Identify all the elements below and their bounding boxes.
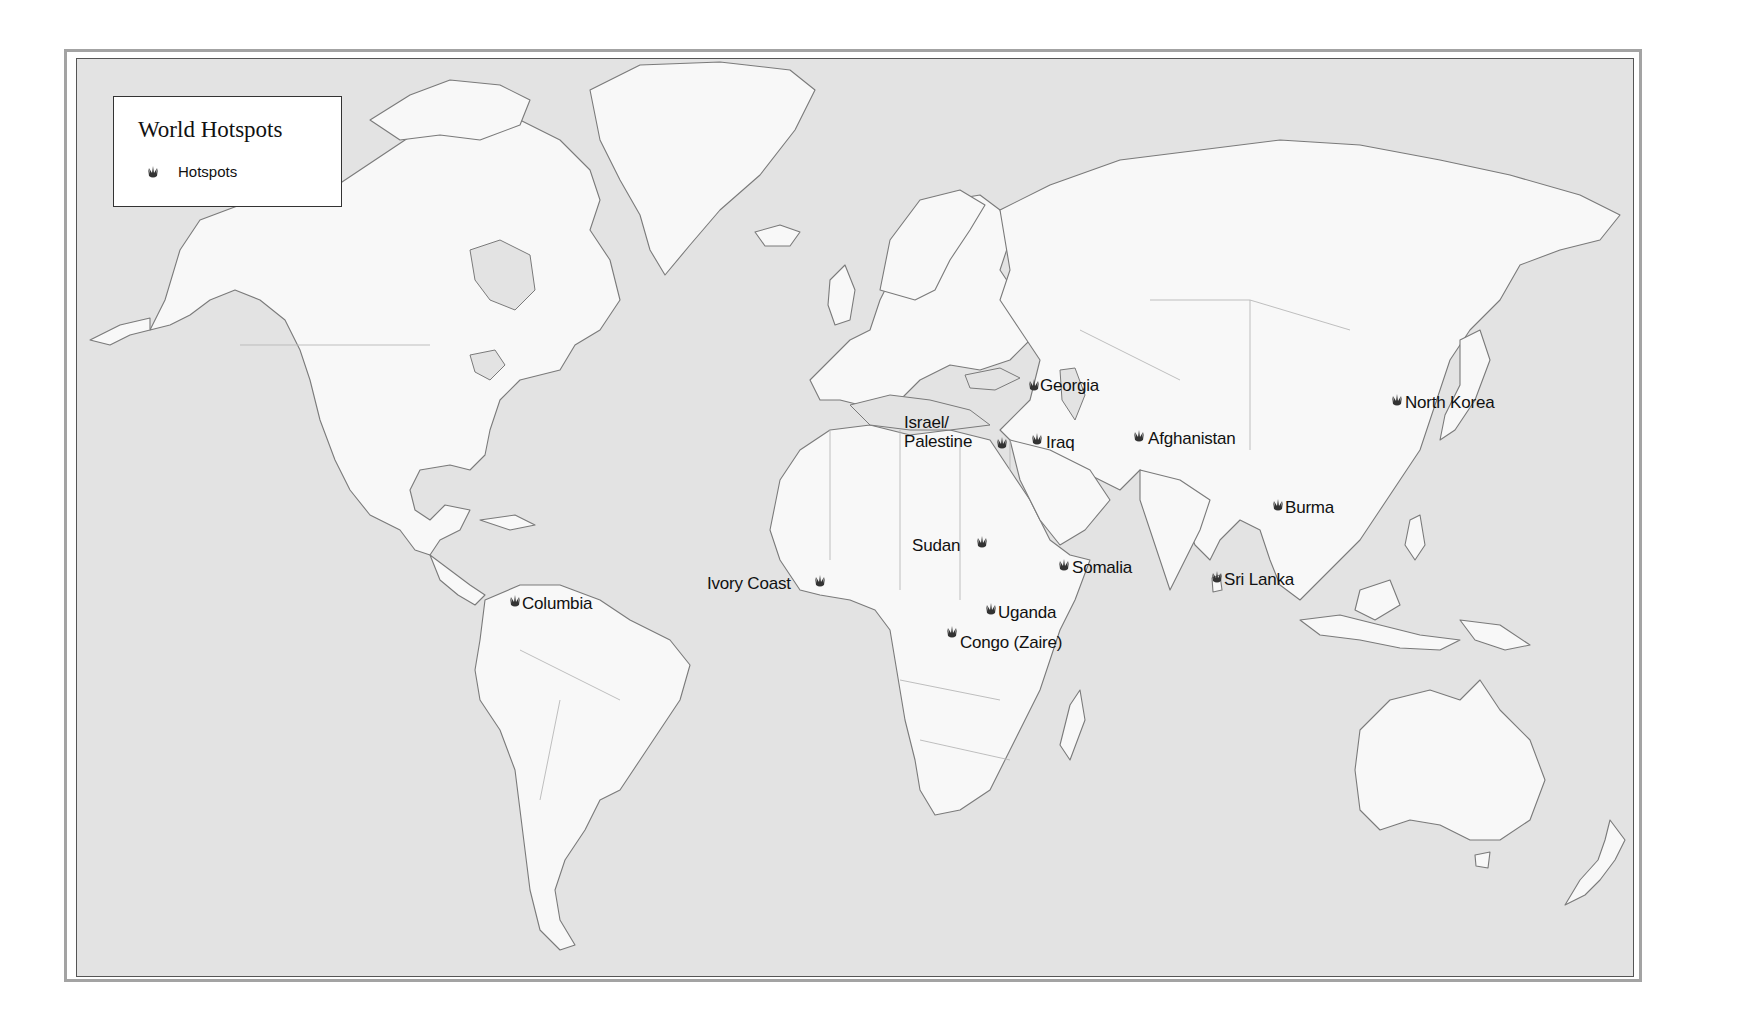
- continent-australia: [1355, 680, 1545, 840]
- hotspot-icon-sudan: [975, 535, 989, 549]
- hotspot-icon-iraq: [1030, 432, 1044, 446]
- hotspot-label-ivory-coast: Ivory Coast: [707, 574, 791, 593]
- hotspot-label-somalia: Somalia: [1072, 558, 1132, 577]
- hotspot-label-israel-palestine: Israel/Palestine: [904, 413, 972, 451]
- landmass-madagascar: [1060, 690, 1085, 760]
- legend-item-label: Hotspots: [178, 163, 237, 180]
- hotspot-icon-north-korea: [1390, 393, 1404, 407]
- landmass-alaska-peninsula: [90, 318, 150, 345]
- hotspot-label-uganda: Uganda: [998, 603, 1056, 622]
- hotspot-label-sudan: Sudan: [912, 536, 960, 555]
- hotspot-icon-ivory-coast: [813, 574, 827, 588]
- black-sea: [965, 368, 1020, 390]
- landmass-iceland: [755, 225, 800, 246]
- landmass-new-zealand: [1565, 820, 1625, 905]
- hotspot-label-iraq: Iraq: [1046, 433, 1075, 452]
- map-legend: World Hotspots Hotspots: [113, 96, 342, 207]
- hotspot-label-afghanistan: Afghanistan: [1148, 429, 1236, 448]
- hotspot-icon-georgia: [1027, 378, 1041, 392]
- hotspot-icon-sri-lanka: [1210, 570, 1224, 584]
- hotspot-label-north-korea: North Korea: [1405, 393, 1494, 412]
- landmass-philippines: [1405, 515, 1425, 560]
- hotspot-label-burma: Burma: [1285, 498, 1334, 517]
- hotspot-label-sri-lanka: Sri Lanka: [1224, 570, 1294, 589]
- landmass-tasmania: [1475, 852, 1490, 868]
- continent-asia: [1000, 140, 1620, 600]
- hotspot-icon-somalia: [1057, 558, 1071, 572]
- landmass-british-isles: [828, 265, 855, 325]
- hotspot-icon-burma: [1271, 498, 1285, 512]
- hotspot-icon-uganda: [984, 602, 998, 616]
- landmass-indonesia: [1300, 615, 1460, 650]
- continent-south-america: [475, 585, 690, 950]
- hotspot-icon-congo-zaire: [945, 625, 959, 639]
- hotspot-icon-israel-palestine: [995, 436, 1009, 450]
- landmass-cuba: [480, 515, 535, 530]
- landmass-central-america: [430, 555, 485, 605]
- hotspot-flame-icon: [146, 165, 160, 179]
- hotspot-icon-afghanistan: [1132, 429, 1146, 443]
- legend-title: World Hotspots: [138, 117, 282, 143]
- hotspot-label-georgia: Georgia: [1040, 376, 1099, 395]
- hotspot-label-columbia: Columbia: [522, 594, 592, 613]
- hotspot-label-congo-zaire: Congo (Zaire): [960, 633, 1062, 652]
- landmass-new-guinea: [1460, 620, 1530, 650]
- hotspot-icon-columbia: [508, 594, 522, 608]
- landmass-borneo: [1355, 580, 1400, 620]
- legend-item-hotspots: Hotspots: [146, 163, 237, 180]
